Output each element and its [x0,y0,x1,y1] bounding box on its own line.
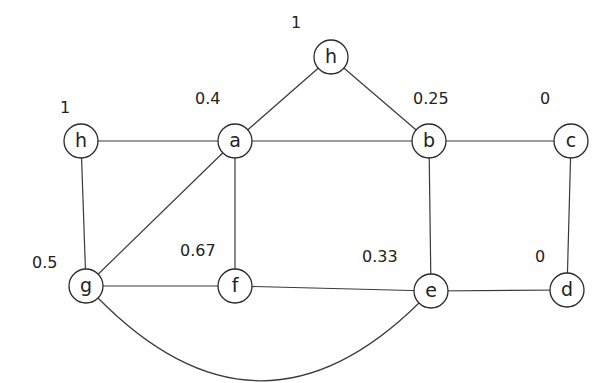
node-e: e [414,274,448,308]
nodes-layer: hhabcgfed [64,40,588,308]
node-label: a [229,129,241,151]
node-label: c [566,129,576,151]
node-label: d [561,278,573,300]
value-label-h_left: 1 [60,98,70,117]
edge-h_left-g [81,141,86,286]
value-label-f: 0.67 [180,241,216,260]
node-f: f [218,269,252,303]
edge-g-e [98,298,419,381]
node-label: h [325,45,337,67]
value-label-c: 0 [540,89,550,108]
edges-layer [81,57,571,381]
edge-c-d [567,141,571,290]
value-label-a: 0.4 [195,89,220,108]
edge-e-d [431,290,567,291]
value-label-g: 0.5 [32,253,57,272]
edge-f-e [235,286,431,291]
node-g: g [69,269,103,303]
value-label-e: 0.33 [362,247,398,266]
node-d: d [550,273,584,307]
node-label: g [80,274,92,296]
node-c: c [554,124,588,158]
node-a: a [218,124,252,158]
edge-b-e [429,141,431,291]
graph-diagram: hhabcgfed 110.40.2500.50.670.330 [0,0,615,383]
node-h_left: h [64,124,98,158]
value-label-h_top: 1 [291,13,301,32]
value-label-b: 0.25 [413,89,449,108]
node-label: e [425,279,437,301]
edge-h_top-a [235,57,331,141]
node-h_top: h [314,40,348,74]
node-label: b [423,129,435,151]
node-b: b [412,124,446,158]
edge-a-g [86,141,235,286]
value-labels-layer: 110.40.2500.50.670.330 [32,13,550,272]
value-label-d: 0 [535,247,545,266]
node-label: h [75,129,87,151]
